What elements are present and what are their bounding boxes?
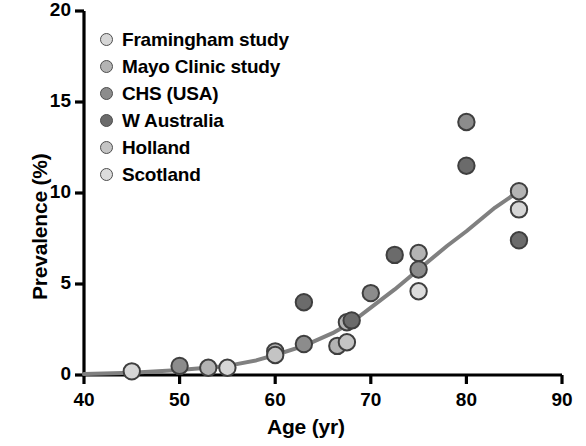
x-tick-label: 60	[250, 389, 300, 411]
data-point	[458, 114, 474, 130]
legend-marker-icon	[100, 60, 113, 73]
data-point	[458, 158, 474, 174]
data-point	[171, 358, 187, 374]
legend-marker-icon	[100, 114, 113, 127]
data-point	[410, 283, 426, 299]
legend-item: W Australia	[100, 107, 289, 134]
legend-label: Holland	[122, 137, 190, 159]
legend-item: CHS (USA)	[100, 80, 289, 107]
legend-label: CHS (USA)	[122, 83, 218, 105]
x-tick-label: 70	[346, 389, 396, 411]
data-point	[124, 363, 140, 379]
legend-marker-icon	[100, 141, 113, 154]
legend-marker-icon	[100, 168, 113, 181]
data-point	[296, 294, 312, 310]
data-point	[410, 261, 426, 277]
data-point	[296, 336, 312, 352]
x-tick-label: 80	[441, 389, 491, 411]
data-point	[410, 245, 426, 261]
data-point	[511, 201, 527, 217]
data-point	[219, 360, 235, 376]
legend-label: Scotland	[122, 164, 201, 186]
prevalence-vs-age-chart: 05101520 405060708090 Prevalence (%) Age…	[0, 0, 586, 446]
legend-item: Framingham study	[100, 26, 289, 53]
data-point	[343, 312, 359, 328]
legend-marker-icon	[100, 87, 113, 100]
x-tick-label: 90	[537, 389, 586, 411]
legend-item: Scotland	[100, 161, 289, 188]
y-axis-title: Prevalence (%)	[28, 153, 52, 300]
data-point	[267, 347, 283, 363]
legend-marker-icon	[100, 33, 113, 46]
y-tick-label: 15	[25, 90, 71, 112]
data-point	[511, 183, 527, 199]
legend-item: Holland	[100, 134, 289, 161]
legend-label: Mayo Clinic study	[122, 56, 280, 78]
y-tick-label: 20	[25, 0, 71, 21]
legend: Framingham studyMayo Clinic studyCHS (US…	[100, 26, 289, 188]
y-tick-label: 0	[25, 363, 71, 385]
legend-item: Mayo Clinic study	[100, 53, 289, 80]
data-point	[363, 285, 379, 301]
data-point	[511, 232, 527, 248]
data-point	[339, 334, 355, 350]
legend-label: W Australia	[122, 110, 224, 132]
x-axis-title: Age (yr)	[267, 415, 345, 439]
x-tick-label: 40	[59, 389, 109, 411]
plot-canvas	[0, 0, 586, 446]
x-tick-label: 50	[155, 389, 205, 411]
data-point	[387, 247, 403, 263]
data-point	[200, 360, 216, 376]
legend-label: Framingham study	[122, 29, 289, 51]
